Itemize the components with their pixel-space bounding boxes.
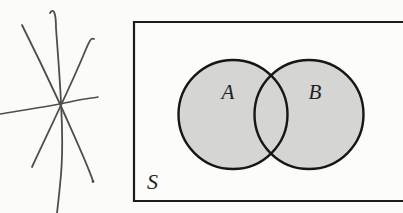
scribble [0,11,98,213]
sample-space-label: S [147,169,158,194]
set-a-label: A [220,80,235,104]
scribble-horizontal-stroke [0,97,98,114]
venn-diagram: A B S [134,22,403,201]
figure-canvas: A B S [0,0,403,213]
scribble-end-dot [92,180,95,183]
set-b-label: B [309,80,322,104]
scanned-figure: A B S [0,0,403,213]
scribble-vertical-stroke [50,11,62,213]
